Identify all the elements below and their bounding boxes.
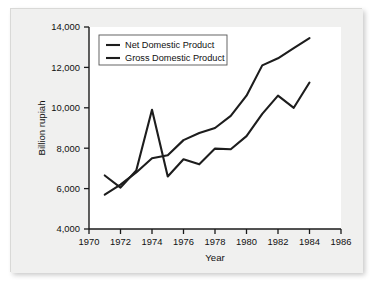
chart-plot-area: 4,0006,0008,00010,00012,00014,000 197019… bbox=[11, 9, 361, 271]
line-chart: 4,0006,0008,00010,00012,00014,000 197019… bbox=[11, 9, 363, 273]
y-tick-label: 6,000 bbox=[57, 183, 80, 194]
chart-legend[interactable]: Net Domestic ProductGross Domestic Produ… bbox=[99, 35, 227, 65]
legend-label[interactable]: Net Domestic Product bbox=[125, 40, 215, 50]
y-tick-label: 14,000 bbox=[51, 21, 80, 32]
y-axis-title: Billion rupiah bbox=[36, 101, 47, 156]
y-tick-label: 10,000 bbox=[51, 102, 80, 113]
x-tick-label: 1986 bbox=[331, 236, 352, 247]
x-tick-label: 1978 bbox=[205, 236, 226, 247]
figure-card: 4,0006,0008,00010,00012,00014,000 197019… bbox=[10, 8, 362, 272]
y-tick-label: 8,000 bbox=[57, 143, 80, 154]
legend-label[interactable]: Gross Domestic Product bbox=[125, 53, 225, 63]
x-axis-title: Year bbox=[205, 252, 225, 263]
x-tick-label: 1970 bbox=[79, 236, 100, 247]
x-tick-label: 1982 bbox=[268, 236, 289, 247]
x-tick-label: 1984 bbox=[299, 236, 320, 247]
y-tick-label: 12,000 bbox=[51, 62, 80, 73]
x-tick-label: 1972 bbox=[110, 236, 131, 247]
y-tick-label: 4,000 bbox=[57, 223, 80, 234]
x-tick-label: 1980 bbox=[236, 236, 257, 247]
x-tick-label: 1976 bbox=[173, 236, 194, 247]
x-tick-label: 1974 bbox=[142, 236, 163, 247]
